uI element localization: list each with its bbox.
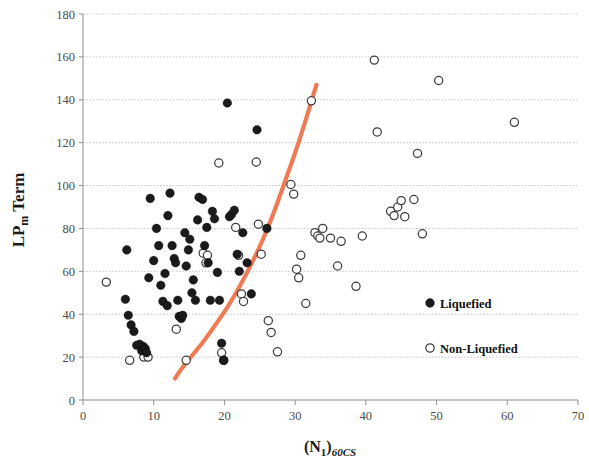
y-tick-label-80: 80	[63, 222, 76, 236]
data-point-liquefied	[233, 250, 242, 259]
data-point-liquefied	[130, 327, 139, 336]
data-point-non-liquefied	[290, 190, 298, 198]
data-point-non-liquefied	[264, 317, 272, 325]
data-point-non-liquefied	[307, 97, 315, 105]
data-point-non-liquefied	[397, 197, 405, 205]
data-point-liquefied	[145, 274, 154, 283]
data-point-liquefied	[164, 211, 173, 220]
data-point-non-liquefied	[390, 212, 398, 220]
data-point-non-liquefied	[126, 356, 134, 364]
data-point-liquefied	[208, 207, 217, 216]
data-point-non-liquefied	[293, 265, 301, 273]
data-point-non-liquefied	[302, 299, 310, 307]
data-point-liquefied	[215, 296, 224, 305]
x-tick-label-0: 0	[80, 409, 86, 423]
data-point-liquefied	[263, 224, 272, 233]
data-point-liquefied	[142, 349, 151, 358]
data-point-liquefied	[210, 215, 219, 224]
data-point-liquefied	[154, 241, 163, 250]
data-point-non-liquefied	[418, 230, 426, 238]
data-point-non-liquefied	[215, 159, 223, 167]
data-point-liquefied	[191, 296, 200, 305]
data-point-non-liquefied	[273, 348, 281, 356]
data-point-liquefied	[171, 259, 180, 268]
x-tick-label-40: 40	[360, 409, 373, 423]
data-point-non-liquefied	[370, 56, 378, 64]
data-point-non-liquefied	[319, 224, 327, 232]
data-point-liquefied	[174, 296, 183, 305]
data-point-non-liquefied	[295, 274, 303, 282]
data-point-non-liquefied	[326, 234, 334, 242]
y-tick-label-40: 40	[63, 308, 76, 322]
data-point-non-liquefied	[232, 223, 240, 231]
data-point-liquefied	[152, 224, 161, 233]
data-point-liquefied	[149, 256, 158, 265]
data-point-liquefied	[189, 276, 198, 285]
data-point-non-liquefied	[203, 251, 211, 259]
data-point-liquefied	[188, 289, 197, 298]
data-point-non-liquefied	[435, 76, 443, 84]
legend-marker-non-liquefied	[426, 344, 434, 352]
data-point-non-liquefied	[267, 328, 275, 336]
svg-text:LPm Term: LPm Term	[9, 173, 31, 248]
data-point-non-liquefied	[252, 158, 260, 166]
y-tick-label-0: 0	[69, 394, 75, 408]
data-point-liquefied	[146, 194, 155, 203]
data-point-non-liquefied	[510, 118, 518, 126]
legend-marker-liquefied	[426, 299, 435, 308]
data-point-liquefied	[157, 281, 166, 290]
data-point-liquefied	[235, 267, 244, 276]
data-point-non-liquefied	[334, 262, 342, 270]
data-point-non-liquefied	[182, 356, 190, 364]
data-point-liquefied	[223, 99, 232, 108]
y-tick-label-180: 180	[56, 8, 75, 22]
x-tick-label-50: 50	[430, 409, 443, 423]
data-point-liquefied	[217, 339, 226, 348]
data-point-liquefied	[184, 246, 193, 255]
data-point-non-liquefied	[239, 297, 247, 305]
data-point-non-liquefied	[373, 128, 381, 136]
data-point-liquefied	[204, 259, 213, 268]
data-point-liquefied	[124, 311, 133, 320]
data-point-non-liquefied	[413, 149, 421, 157]
x-tick-label-30: 30	[289, 409, 302, 423]
y-tick-label-160: 160	[56, 50, 75, 64]
data-point-liquefied	[178, 311, 187, 320]
data-point-liquefied	[163, 301, 172, 310]
y-tick-label-120: 120	[56, 136, 75, 150]
plot-background	[0, 0, 589, 462]
y-tick-label-20: 20	[63, 351, 76, 365]
data-point-liquefied	[213, 268, 222, 277]
data-point-liquefied	[168, 241, 177, 250]
data-point-liquefied	[182, 262, 191, 271]
data-point-liquefied	[193, 216, 202, 225]
y-tick-label-140: 140	[56, 93, 75, 107]
data-point-liquefied	[247, 290, 256, 299]
data-point-liquefied	[200, 241, 209, 250]
y-axis-title: LPm Term	[9, 173, 31, 248]
data-point-non-liquefied	[287, 180, 295, 188]
data-point-liquefied	[243, 259, 252, 268]
data-point-non-liquefied	[410, 195, 418, 203]
data-point-non-liquefied	[352, 282, 360, 290]
data-point-non-liquefied	[172, 325, 180, 333]
data-point-liquefied	[203, 223, 212, 232]
data-point-non-liquefied	[337, 237, 345, 245]
x-tick-label-70: 70	[572, 409, 585, 423]
data-point-liquefied	[219, 356, 228, 365]
data-point-non-liquefied	[297, 251, 305, 259]
y-tick-label-100: 100	[56, 179, 75, 193]
data-point-liquefied	[230, 206, 239, 215]
x-tick-label-20: 20	[218, 409, 231, 423]
plot-svg: 020406080100120140160180 010203040506070…	[0, 0, 589, 462]
data-point-non-liquefied	[401, 213, 409, 221]
data-point-non-liquefied	[358, 232, 366, 240]
x-tick-label-60: 60	[501, 409, 514, 423]
data-point-liquefied	[123, 246, 132, 255]
data-point-liquefied	[198, 195, 207, 204]
y-tick-label-60: 60	[63, 265, 76, 279]
data-point-liquefied	[253, 126, 262, 135]
data-point-liquefied	[161, 269, 170, 278]
data-point-non-liquefied	[102, 278, 110, 286]
legend-label-non-liquefied: Non-Liquefied	[440, 342, 518, 356]
